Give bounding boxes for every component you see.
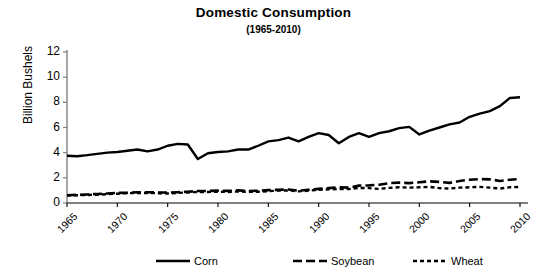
legend-swatch-wheat [412, 256, 448, 266]
legend-item-corn[interactable]: Corn [155, 252, 218, 270]
legend-label: Wheat [451, 256, 483, 267]
legend-item-wheat[interactable]: Wheat [412, 252, 483, 270]
series-line-corn [67, 97, 520, 159]
chart-legend: CornSoybeanWheat [0, 252, 547, 272]
legend-swatch-soybean [292, 256, 328, 266]
legend-label: Corn [194, 256, 218, 267]
chart-figure: Domestic Consumption (1965-2010) Billion… [0, 0, 547, 278]
legend-swatch-corn [155, 256, 191, 266]
plot-canvas [0, 0, 547, 278]
legend-item-soybean[interactable]: Soybean [292, 252, 374, 270]
legend-label: Soybean [331, 256, 374, 267]
